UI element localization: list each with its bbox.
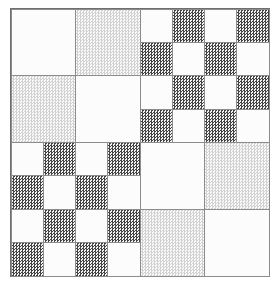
cell-bottom-left-r1-c1	[43, 175, 76, 209]
cell-bottom-right-r1-c1	[204, 209, 270, 277]
cell-top-left-r0-c1	[75, 9, 141, 77]
cell-bottom-left-r3-c0	[11, 242, 44, 276]
cell-bottom-left-r0-c0	[11, 142, 44, 176]
cell-bottom-left-r0-c2	[75, 142, 108, 176]
cell-top-right-r0-c2	[204, 9, 237, 43]
cell-bottom-left-r2-c1	[43, 209, 76, 243]
cell-bottom-left-r1-c3	[107, 175, 140, 209]
checkerboard-frame	[10, 8, 270, 277]
quadrant-top-left	[11, 9, 140, 143]
cell-top-right-r0-c1	[172, 9, 205, 43]
cell-bottom-left-r0-c3	[107, 142, 140, 176]
cell-top-right-r2-c3	[236, 75, 269, 109]
cell-bottom-left-r1-c0	[11, 175, 44, 209]
cell-top-right-r1-c2	[204, 42, 237, 76]
cell-top-right-r2-c2	[204, 75, 237, 109]
cell-bottom-left-r3-c2	[75, 242, 108, 276]
cell-top-right-r1-c1	[172, 42, 205, 76]
cell-top-right-r2-c1	[172, 75, 205, 109]
cell-top-left-r1-c0	[11, 75, 77, 143]
cell-bottom-left-r2-c3	[107, 209, 140, 243]
figure-root	[0, 0, 278, 289]
cell-top-right-r3-c2	[204, 109, 237, 143]
quadrant-bottom-right	[140, 143, 269, 277]
cell-bottom-right-r0-c0	[140, 142, 206, 210]
cell-top-right-r1-c0	[140, 42, 173, 76]
cell-bottom-left-r0-c1	[43, 142, 76, 176]
cell-top-right-r1-c3	[236, 42, 269, 76]
cell-top-right-r3-c3	[236, 109, 269, 143]
quadrant-top-right	[140, 9, 269, 143]
cell-top-right-r3-c0	[140, 109, 173, 143]
cell-top-left-r0-c0	[11, 9, 77, 77]
quadrant-bottom-left	[11, 143, 140, 277]
cell-top-right-r0-c0	[140, 9, 173, 43]
cell-bottom-right-r0-c1	[204, 142, 270, 210]
cell-bottom-left-r2-c0	[11, 209, 44, 243]
cell-bottom-right-r1-c0	[140, 209, 206, 277]
cell-top-right-r2-c0	[140, 75, 173, 109]
cell-top-left-r1-c1	[75, 75, 141, 143]
cell-bottom-left-r2-c2	[75, 209, 108, 243]
cell-bottom-left-r3-c3	[107, 242, 140, 276]
cell-bottom-left-r1-c2	[75, 175, 108, 209]
cell-top-right-r3-c1	[172, 109, 205, 143]
cell-bottom-left-r3-c1	[43, 242, 76, 276]
cell-top-right-r0-c3	[236, 9, 269, 43]
